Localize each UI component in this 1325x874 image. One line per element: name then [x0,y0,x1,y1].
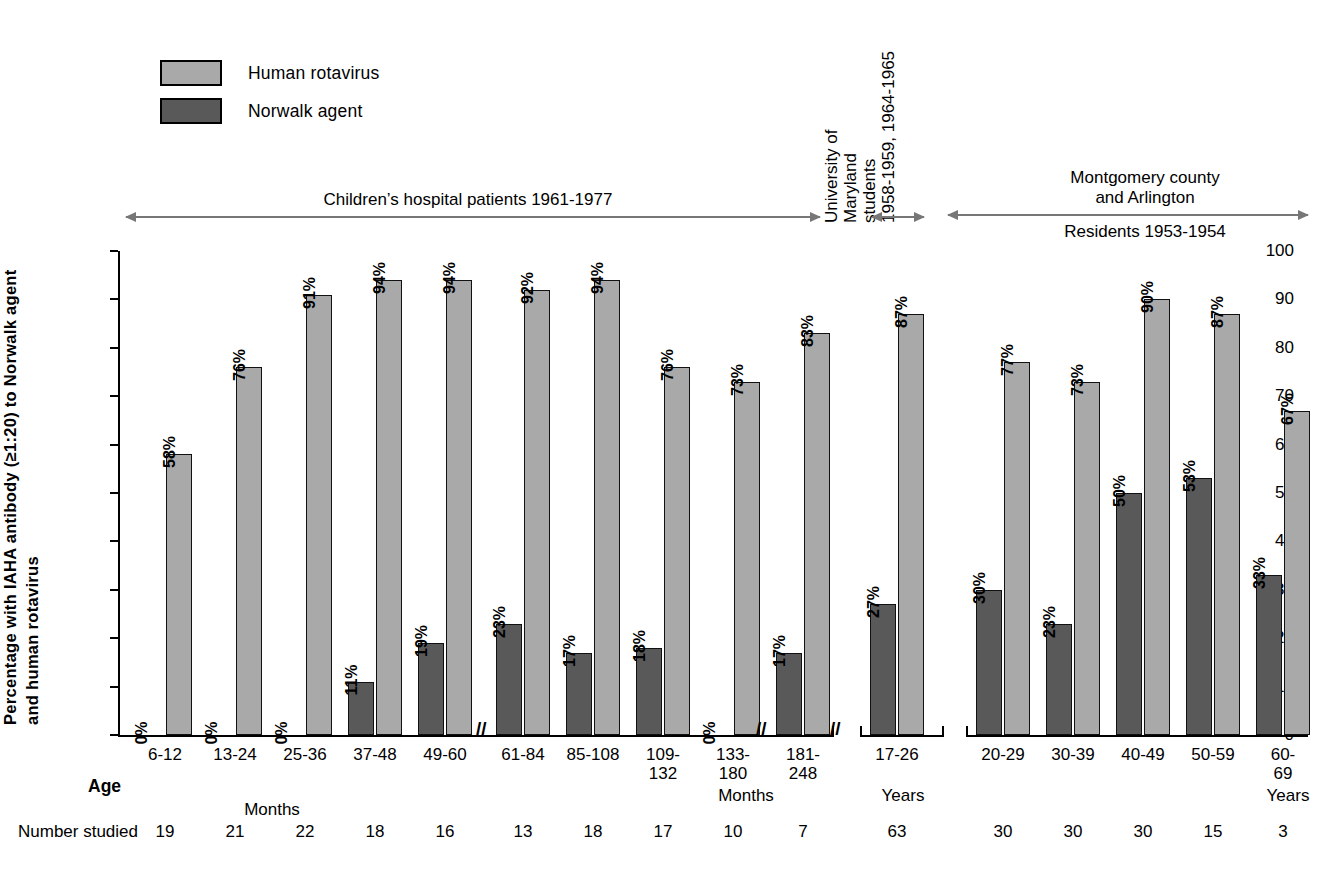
annotation-maryland-line-4: 1958-1959, 1964-1965 [879,51,899,223]
bar-value-label: 0% [701,721,719,744]
chart-plot-area: 0102030405060708090100 0%58%0%76%0%91%11… [118,251,1308,735]
bar-norwalk-agent-109-132: 18% [636,648,662,735]
bar-norwalk-agent-37-48: 11% [348,682,374,735]
y-tick-label-80: 80 [1248,338,1294,358]
y-tick-30 [110,589,118,591]
age-label: Age [88,776,121,797]
y-tick-90 [110,298,118,300]
number-studied-30-39: 30 [1064,822,1083,842]
legend-swatch-human-rotavirus [160,60,222,86]
x-axis-segment [966,735,1308,737]
bar-human-rotavirus-13-24: 76% [236,367,262,735]
y-tick-0 [110,734,118,736]
y-tick-60 [110,444,118,446]
annotation-arrow-children [126,216,820,218]
x-axis-end-cap [966,726,968,737]
bar-value-label: 77% [999,344,1017,376]
bar-human-rotavirus-109-132: 76% [664,367,690,735]
bar-human-rotavirus-85-108: 94% [594,280,620,735]
number-studied-85-108: 18 [584,822,603,842]
bar-norwalk-agent-40-49: 50% [1116,493,1142,735]
bar-value-label: 11% [343,664,361,695]
annotation-maryland: University of Maryland students 1958-195… [840,8,900,213]
legend-item-human-rotavirus: Human rotavirus [160,58,379,88]
bar-norwalk-agent-50-59: 53% [1186,478,1212,735]
bar-value-label: 53% [1181,460,1199,492]
number-studied-49-60: 16 [436,822,455,842]
annotation-maryland-line-1: University of [822,129,842,223]
bar-value-label: 0% [203,721,221,744]
bar-human-rotavirus-40-49: 90% [1144,299,1170,735]
annotation-montgomery-line-1: Montgomery county [1070,168,1219,188]
annotation-montgomery-sub: Residents 1953-1954 [1064,222,1226,242]
number-studied-17-26: 63 [888,822,907,842]
bar-value-label: 83% [799,315,817,347]
x-label-49-60: 49-60 [423,745,466,764]
number-studied-133-180: 10 [724,822,743,842]
x-unit-label: Years [1267,786,1310,806]
bar-human-rotavirus-61-84: 92% [524,290,550,735]
x-label-37-48: 37-48 [353,745,396,764]
x-axis-end-cap [942,726,944,737]
x-label-61-84: 61-84 [501,745,544,764]
bar-human-rotavirus-17-26: 87% [898,314,924,735]
x-label-181-248: 181-248 [786,745,820,783]
annotation-montgomery-line-2: and Arlington [1095,188,1194,208]
legend-swatch-norwalk-agent [160,98,222,124]
bar-value-label: 27% [865,586,883,618]
number-studied-61-84: 13 [514,822,533,842]
y-tick-40 [110,540,118,542]
legend-label-human-rotavirus: Human rotavirus [248,63,379,84]
annotation-children-hospital: Children’s hospital patients 1961-1977 [324,190,613,210]
bar-value-label: 76% [659,349,677,381]
bar-human-rotavirus-50-59: 87% [1214,314,1240,735]
bar-human-rotavirus-37-48: 94% [376,280,402,735]
bar-norwalk-agent-17-26: 27% [870,604,896,735]
x-label-133-180: 133-180 [716,745,750,783]
number-studied-20-29: 30 [994,822,1013,842]
number-studied-50-59: 15 [1204,822,1223,842]
bar-value-label: 0% [273,721,291,744]
bar-human-rotavirus-60-69: 67% [1284,411,1310,735]
y-tick-80 [110,347,118,349]
bar-value-label: 67% [1279,393,1297,425]
bar-value-label: 33% [1251,557,1269,589]
number-studied-109-132: 17 [654,822,673,842]
bar-value-label: 50% [1111,475,1129,507]
y-axis-title: Percentage with IAHA antibody (≥1:20) to… [18,236,64,706]
x-axis-segment [860,735,944,737]
bar-norwalk-agent-61-84: 23% [496,624,522,735]
x-label-20-29: 20-29 [981,745,1024,764]
y-tick-70 [110,395,118,397]
x-axis-end-cap [860,726,862,737]
y-axis-title-line-1: Percentage with IAHA antibody (≥1:20) to… [1,269,20,725]
number-studied-6-12: 19 [156,822,175,842]
x-label-109-132: 109-132 [646,745,680,783]
bar-value-label: 90% [1139,281,1157,313]
bar-value-label: 94% [441,262,459,294]
bar-value-label: 30% [971,572,989,604]
y-tick-10 [110,686,118,688]
x-label-25-36: 25-36 [283,745,326,764]
number-studied-40-49: 30 [1134,822,1153,842]
x-axis-break-mark: // [830,719,841,738]
bar-value-label: 23% [491,606,509,638]
y-tick-20 [110,637,118,639]
bar-value-label: 17% [771,635,789,667]
bar-value-label: 94% [371,262,389,294]
bar-norwalk-agent-20-29: 30% [976,590,1002,735]
bar-value-label: 87% [1209,296,1227,328]
x-label-40-49: 40-49 [1121,745,1164,764]
bar-value-label: 87% [893,296,911,328]
annotation-maryland-line-2: Maryland [841,153,861,223]
legend: Human rotavirus Norwalk agent [160,58,379,134]
bar-norwalk-agent-85-108: 17% [566,653,592,735]
x-label-85-108: 85-108 [567,745,620,764]
x-label-30-39: 30-39 [1051,745,1094,764]
annotation-arrow-maryland [872,216,924,218]
bar-value-label: 17% [561,635,579,667]
bar-human-rotavirus-25-36: 91% [306,295,332,735]
x-label-13-24: 13-24 [213,745,256,764]
bar-value-label: 92% [519,272,537,304]
bar-value-label: 58% [161,436,179,468]
